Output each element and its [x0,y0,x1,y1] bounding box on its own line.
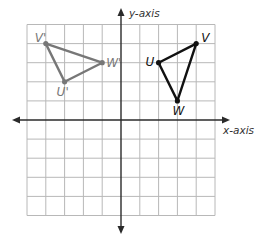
vertex-label: V [201,31,210,45]
vertex-point [100,60,105,65]
vertex-point [156,60,161,65]
y-axis-label: y-axis [128,7,160,19]
y-axis-down-arrow-icon [118,226,125,234]
vertex-label: W [172,104,185,118]
vertex-point [194,41,199,46]
y-axis-up-arrow-icon [118,8,125,16]
vertex-label: W' [106,56,121,70]
vertex-point [62,79,67,84]
vertex-label: U [146,55,155,69]
x-axis-left-arrow-icon [12,117,20,124]
coordinate-plane: x-axis y-axis UVWU'V'W' [0,0,258,245]
vertex-label: U' [57,85,69,99]
axes: x-axis y-axis [12,7,255,234]
vertex-point [175,98,180,103]
x-axis-label: x-axis [222,124,255,136]
x-axis-right-arrow-icon [222,117,230,124]
vertex-label: V' [35,31,47,45]
triangle-uvw-prime: U'V'W' [35,31,122,99]
